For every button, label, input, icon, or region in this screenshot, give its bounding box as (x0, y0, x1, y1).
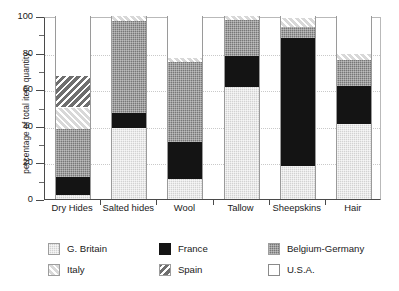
legend-row-2: ItalySpainU.S.A. (48, 259, 388, 280)
bar-hair (336, 16, 372, 199)
segment-bg (112, 21, 146, 113)
chart-legend: G. BritainFranceBelgium-GermanyItalySpai… (48, 238, 388, 280)
segment-it (337, 54, 371, 59)
y-tick-40 (36, 127, 44, 128)
segment-bg (168, 62, 202, 143)
plot-area (44, 17, 381, 200)
gridline-60 (45, 91, 380, 92)
legend-swatch-us (268, 264, 280, 276)
segment-us (168, 16, 202, 58)
legend-item-bg[interactable]: Belgium-Germany (268, 243, 388, 255)
bar-sheepskins (280, 16, 316, 199)
legend-swatch-sp (159, 264, 171, 276)
legend-swatch-bg (268, 243, 280, 255)
y-tick-label-20: 20 (3, 158, 33, 167)
stacked-bar-chart: percentage of total item quantity 020406… (0, 0, 399, 291)
legend-label-us: U.S.A. (287, 264, 315, 275)
segment-fr (168, 142, 202, 179)
legend-item-sp[interactable]: Spain (159, 264, 268, 276)
segment-gb (281, 166, 315, 199)
legend-item-it[interactable]: Italy (48, 264, 159, 276)
segment-bg (337, 60, 371, 86)
segment-us (281, 16, 315, 18)
legend-label-fr: France (178, 243, 208, 254)
segment-it (225, 16, 259, 20)
y-tick-100 (36, 17, 44, 18)
segment-it (168, 58, 202, 62)
segment-gb (168, 179, 202, 199)
y-tick-label-100: 100 (3, 12, 33, 21)
legend-swatch-fr (159, 243, 171, 255)
segment-fr (337, 86, 371, 124)
legend-item-us[interactable]: U.S.A. (268, 264, 388, 276)
legend-item-gb[interactable]: G. Britain (48, 243, 159, 255)
segment-fr (56, 177, 90, 195)
y-tick-label-80: 80 (3, 49, 33, 58)
segment-it (281, 18, 315, 27)
bar-wool (167, 16, 203, 199)
segment-bg (56, 129, 90, 177)
y-axis-title: percentage of total item quantity (21, 13, 31, 213)
y-tick-80 (36, 54, 44, 55)
gridline-20 (45, 164, 380, 165)
segment-it (112, 16, 146, 21)
gridline-80 (45, 55, 380, 56)
gridline-40 (45, 128, 380, 129)
y-tick-20 (36, 163, 44, 164)
y-tick-label-40: 40 (3, 122, 33, 131)
legend-label-bg: Belgium-Germany (287, 243, 364, 254)
legend-row-1: G. BritainFranceBelgium-Germany (48, 238, 388, 259)
segment-gb (56, 195, 90, 199)
bar-tallow (224, 16, 260, 199)
y-tick-0 (36, 200, 44, 201)
legend-swatch-it (48, 264, 60, 276)
legend-label-sp: Spain (178, 264, 203, 275)
segment-gb (337, 124, 371, 199)
segment-bg (225, 20, 259, 57)
legend-swatch-gb (48, 243, 60, 255)
segment-gb (112, 128, 146, 199)
y-tick-60 (36, 90, 44, 91)
segment-us (56, 16, 90, 76)
bar-dry-hides (55, 16, 91, 199)
segment-it (56, 108, 90, 130)
legend-label-it: Italy (67, 264, 85, 275)
segment-us (337, 16, 371, 54)
y-tick-label-60: 60 (3, 85, 33, 94)
bar-salted-hides (111, 16, 147, 199)
segment-bg (281, 27, 315, 38)
legend-item-fr[interactable]: France (159, 243, 268, 255)
segment-sp (56, 76, 90, 107)
segment-fr (112, 113, 146, 128)
legend-label-gb: G. Britain (67, 243, 107, 254)
x-axis-label-hair: Hair (308, 203, 398, 213)
segment-gb (225, 87, 259, 199)
segment-fr (225, 56, 259, 87)
segment-fr (281, 38, 315, 166)
